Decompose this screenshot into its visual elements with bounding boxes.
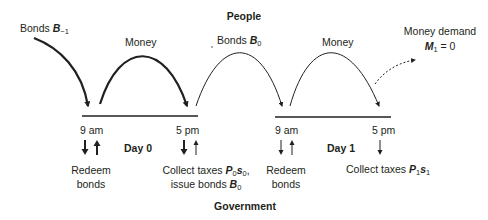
bonds-prev-arrow	[34, 38, 88, 106]
money-day1-label: Money	[322, 36, 354, 48]
money-day0-label: Money	[125, 36, 157, 48]
people-title: People	[224, 10, 264, 22]
day1-pm-event: Collect taxes P1s1	[346, 163, 430, 175]
money-demand-arrow	[375, 60, 415, 84]
day0-am-time: 9 am	[80, 124, 103, 136]
money-demand-label: Money demand M1 = 0	[400, 25, 480, 52]
day0-pm-time: 5 pm	[176, 124, 199, 136]
day0-am-event: Redeem bonds	[66, 163, 116, 191]
day0-pm-down-arrow	[181, 149, 188, 155]
day1-pm-down-arrow	[378, 150, 383, 155]
day0-pm-event: Collect taxes P0s0, issue bonds B0	[146, 163, 266, 191]
money-day1-arc	[290, 53, 379, 106]
day1-am-down-arrow	[279, 150, 284, 155]
day1-am-event: Redeem bonds	[261, 163, 311, 191]
day0-am-up-arrow	[94, 140, 101, 146]
day1-am-time: 9 am	[275, 124, 298, 136]
day0-am-down-arrow	[82, 149, 89, 155]
money-day0-arc	[100, 56, 187, 106]
bonds-day0-arc	[196, 53, 282, 106]
bonds-prev-label: Bonds B−1	[20, 22, 69, 34]
day1-am-up-arrow	[290, 140, 295, 145]
bonds-day0-label: Bonds B0	[217, 34, 261, 46]
day0-pm-up-arrow	[194, 140, 199, 145]
government-title: Government	[210, 200, 280, 212]
day1-label: Day 1	[327, 142, 355, 154]
day0-label: Day 0	[124, 142, 152, 154]
day1-pm-time: 5 pm	[372, 124, 395, 136]
